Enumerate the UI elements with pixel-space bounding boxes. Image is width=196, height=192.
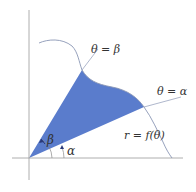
- ray-alpha: [144, 97, 181, 107]
- label-angle-beta: β: [46, 133, 54, 147]
- polar-region-diagram: θ = β θ = α r = f(θ) β α: [0, 0, 196, 192]
- arrow-alpha-icon: [60, 145, 64, 149]
- label-ray-beta: θ = β: [91, 43, 120, 56]
- label-curve: r = f(θ): [124, 129, 165, 142]
- label-ray-alpha: θ = α: [157, 85, 188, 98]
- label-angle-alpha: α: [67, 144, 75, 158]
